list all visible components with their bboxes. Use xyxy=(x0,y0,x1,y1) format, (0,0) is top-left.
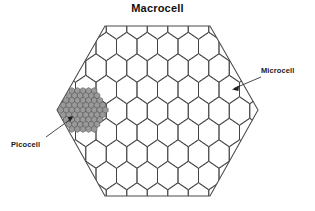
picocell-hexagon xyxy=(91,126,97,132)
cellular-hierarchy-diagram xyxy=(0,0,315,211)
picocell-hexagon xyxy=(86,126,92,132)
picocell-hexagon xyxy=(69,126,75,132)
page-title: Macrocell xyxy=(0,2,315,14)
picocell-hexagon xyxy=(80,126,86,132)
picocell-hexagon xyxy=(75,126,81,132)
microcell-label: Microcell xyxy=(261,66,294,75)
picocell-label: Picocell xyxy=(11,140,40,149)
